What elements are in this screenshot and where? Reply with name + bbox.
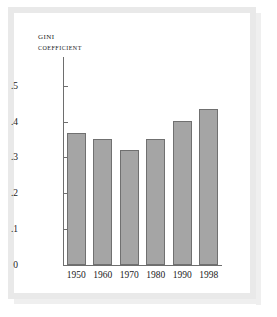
bar-slot <box>90 57 117 265</box>
bar[interactable] <box>93 139 112 265</box>
y-axis-tick <box>63 265 68 266</box>
bar-slot <box>116 57 143 265</box>
bar-slot <box>196 57 223 265</box>
bar[interactable] <box>173 121 192 265</box>
bar[interactable] <box>146 139 165 265</box>
y-axis-tick-label: .2 <box>0 188 18 198</box>
y-axis-tick-label: .4 <box>0 117 18 127</box>
plot-area: 0.1.2.3.4.5 195019601970198019901998 <box>14 13 250 293</box>
bar[interactable] <box>199 109 218 265</box>
bar-slot <box>63 57 90 265</box>
y-axis-tick-label: .1 <box>0 224 18 234</box>
y-axis-tick-label: .3 <box>0 152 18 162</box>
figure-shadow-bottom <box>14 299 261 304</box>
figure-card: Gini Coefficient 0.1.2.3.4.5 19501960197… <box>14 13 250 293</box>
x-axis-tick-label: 1998 <box>189 270 229 280</box>
bar[interactable] <box>120 150 139 265</box>
bar[interactable] <box>67 133 86 265</box>
bar-slot <box>143 57 170 265</box>
bar-series <box>63 57 222 265</box>
figure-shadow-right <box>256 13 261 305</box>
x-axis-line <box>63 265 222 266</box>
chart-figure: Gini Coefficient 0.1.2.3.4.5 19501960197… <box>0 0 277 317</box>
y-axis-tick-label: .5 <box>0 81 18 91</box>
bar-slot <box>169 57 196 265</box>
y-axis-tick-label: 0 <box>0 260 18 270</box>
